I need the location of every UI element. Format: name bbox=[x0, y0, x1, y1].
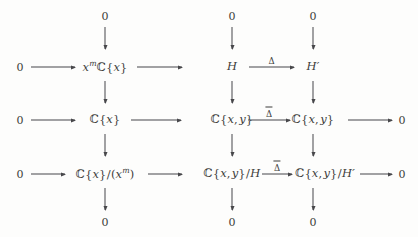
node-row3-right-zero: 0 bbox=[398, 169, 405, 180]
arrow-row3-col3-to-zero bbox=[360, 174, 392, 175]
vertical-arrow-col3-row1-row2 bbox=[313, 81, 314, 103]
node-bottom-zero-col2: 0 bbox=[228, 217, 235, 228]
arrow-row1-col1-to-col2 bbox=[137, 67, 182, 68]
arrow-row3-col1-to-col2 bbox=[148, 174, 182, 175]
arrow-row2-col3-to-zero bbox=[348, 120, 392, 121]
node-row2-col3: ℂ{x, y} bbox=[292, 114, 334, 126]
arrow-label-row3-delta-bar: Δ bbox=[274, 163, 280, 172]
vertical-arrow-col1-row1-row2 bbox=[105, 81, 106, 103]
vertical-arrow-col3-top bbox=[313, 27, 314, 49]
vertical-arrow-col3-bottom bbox=[313, 188, 314, 210]
vertical-arrow-col2-top bbox=[232, 27, 233, 49]
node-row1-col1: xmℂ{x} bbox=[83, 60, 128, 73]
vertical-arrow-col3-row2-row3 bbox=[313, 134, 314, 156]
node-row2-col2: ℂ{x, y} bbox=[211, 114, 253, 126]
node-row2-left-zero: 0 bbox=[16, 115, 23, 126]
node-top-zero-col1: 0 bbox=[101, 11, 108, 22]
node-row3-col1: ℂ{x}/(xm) bbox=[76, 167, 135, 180]
arrow-row1-col2-to-col3: Δ bbox=[249, 67, 294, 68]
commutative-diagram: 0 0 0 0 xmℂ{x} H Δ H′ 0 ℂ{x} ℂ{x, y} Δ ℂ… bbox=[0, 0, 418, 237]
node-row1-left-zero: 0 bbox=[16, 62, 23, 73]
node-row2-right-zero: 0 bbox=[398, 115, 405, 126]
node-row1-col3: H′ bbox=[307, 61, 320, 73]
arrow-row3-zero-to-col1 bbox=[31, 174, 65, 175]
node-top-zero-col3: 0 bbox=[309, 11, 316, 22]
node-bottom-zero-col3: 0 bbox=[309, 217, 316, 228]
node-row3-col2: ℂ{x, y}/H bbox=[203, 168, 260, 180]
arrow-row2-zero-to-col1 bbox=[31, 120, 75, 121]
arrow-row2-col2-to-col3: Δ bbox=[248, 120, 290, 121]
vertical-arrow-col2-row1-row2 bbox=[232, 81, 233, 103]
vertical-arrow-col2-row2-row3 bbox=[232, 134, 233, 156]
vertical-arrow-col1-top bbox=[105, 27, 106, 49]
arrow-row1-zero-to-col1 bbox=[31, 67, 75, 68]
node-row2-col1: ℂ{x} bbox=[90, 114, 121, 126]
arrow-row2-col1-to-col2 bbox=[131, 120, 181, 121]
node-row3-col3: ℂ{x, y}/H′ bbox=[295, 168, 355, 180]
arrow-row3-col2-to-col3: Δ bbox=[262, 174, 292, 175]
node-row3-left-zero: 0 bbox=[16, 169, 23, 180]
node-top-zero-col2: 0 bbox=[228, 11, 235, 22]
vertical-arrow-col1-row2-row3 bbox=[105, 134, 106, 156]
vertical-arrow-col1-bottom bbox=[105, 188, 106, 210]
arrow-label-row2-delta-bar: Δ bbox=[266, 109, 272, 118]
vertical-arrow-col2-bottom bbox=[232, 188, 233, 210]
node-bottom-zero-col1: 0 bbox=[101, 217, 108, 228]
node-row1-col2: H bbox=[227, 61, 237, 73]
arrow-label-row1-delta: Δ bbox=[268, 56, 274, 65]
